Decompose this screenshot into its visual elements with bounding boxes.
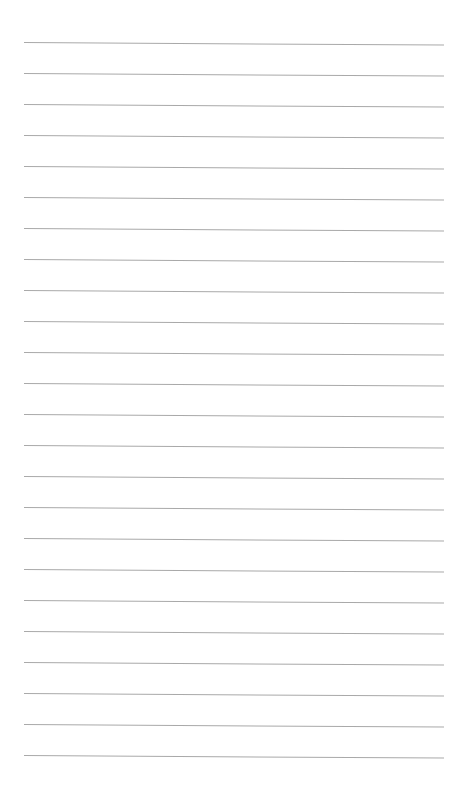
ruled-line	[24, 693, 444, 697]
ruled-line	[24, 197, 444, 201]
ruled-line	[24, 476, 444, 480]
ruled-line	[24, 42, 444, 46]
ruled-line	[24, 383, 444, 387]
ruled-line	[24, 290, 444, 294]
ruled-line	[24, 104, 444, 108]
ruled-line	[24, 321, 444, 325]
lined-paper-page	[0, 0, 465, 794]
ruled-line	[24, 166, 444, 170]
ruled-line	[24, 73, 444, 77]
ruled-line	[24, 631, 444, 635]
ruled-line	[24, 445, 444, 449]
ruled-line	[24, 352, 444, 356]
ruled-line	[24, 569, 444, 573]
ruled-line	[24, 414, 444, 418]
ruled-line	[24, 755, 444, 759]
ruled-line	[24, 259, 444, 263]
ruled-line	[24, 507, 444, 511]
ruled-line	[24, 135, 444, 139]
ruled-line	[24, 662, 444, 666]
ruled-line	[24, 538, 444, 542]
ruled-line	[24, 600, 444, 604]
ruled-line	[24, 228, 444, 232]
ruled-line	[24, 724, 444, 728]
